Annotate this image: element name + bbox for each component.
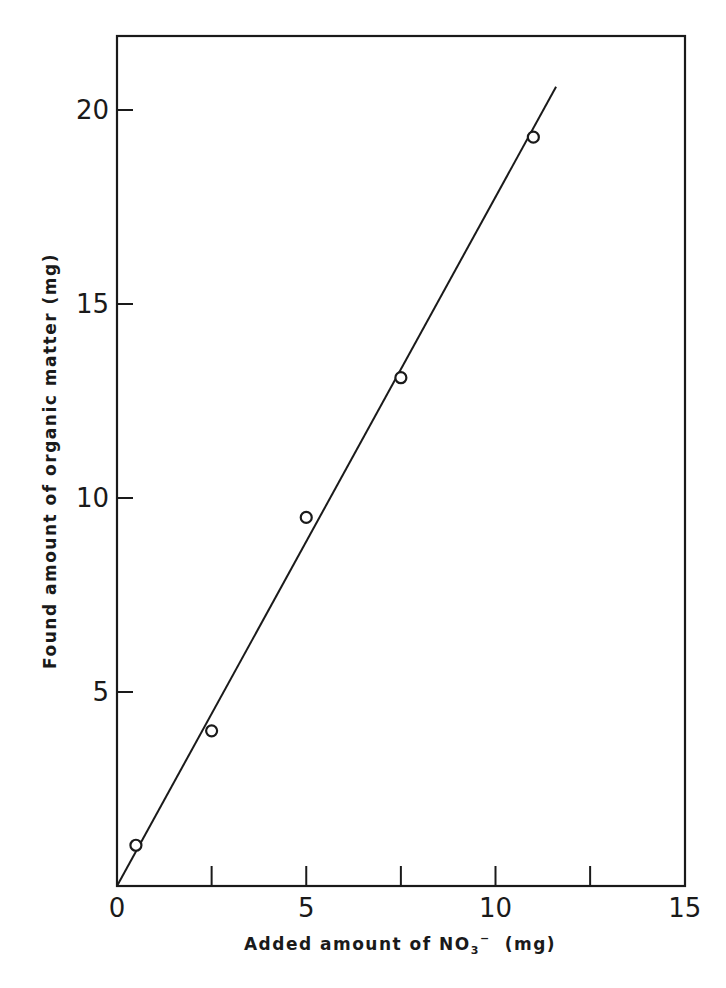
x-tick-label: 15 bbox=[668, 893, 701, 923]
x-axis-ticks bbox=[212, 866, 591, 886]
data-point bbox=[130, 840, 141, 851]
y-tick-label: 5 bbox=[92, 677, 109, 707]
y-axis-label: Found amount of organic matter (mg) bbox=[40, 253, 60, 669]
x-tick-label: 0 bbox=[109, 893, 126, 923]
y-tick-label: 20 bbox=[76, 95, 109, 125]
y-tick-label: 15 bbox=[76, 289, 109, 319]
fit-line bbox=[117, 87, 556, 886]
x-tick-label: 5 bbox=[298, 893, 315, 923]
chart: 051015 5101520 Added amount of NO3−(mg) … bbox=[0, 0, 726, 988]
data-point bbox=[528, 132, 539, 143]
x-axis-tick-labels: 051015 bbox=[109, 893, 702, 923]
x-axis-label: Added amount of NO3−(mg) bbox=[244, 932, 556, 957]
x-tick-label: 10 bbox=[479, 893, 512, 923]
data-point bbox=[395, 372, 406, 383]
plot-frame bbox=[117, 36, 685, 886]
data-point bbox=[206, 725, 217, 736]
y-axis-ticks bbox=[117, 110, 133, 692]
y-axis-tick-labels: 5101520 bbox=[76, 95, 109, 707]
y-tick-label: 10 bbox=[76, 483, 109, 513]
data-point bbox=[301, 512, 312, 523]
